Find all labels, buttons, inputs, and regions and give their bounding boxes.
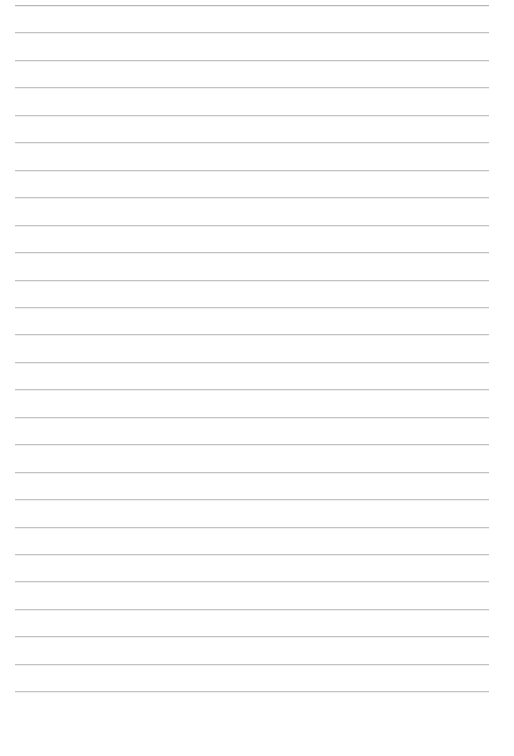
lined-paper-page bbox=[0, 0, 514, 756]
bottom-margin-area bbox=[0, 692, 514, 756]
writing-surface[interactable] bbox=[0, 0, 514, 756]
